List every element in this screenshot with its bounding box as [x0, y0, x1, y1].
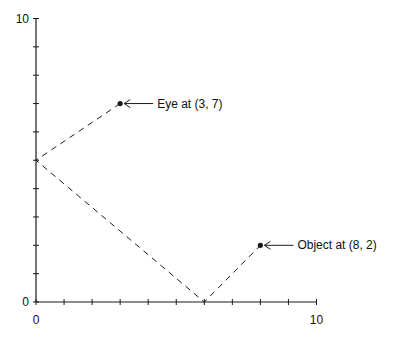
object-point — [258, 243, 263, 248]
object-label: Object at (8, 2) — [297, 238, 376, 252]
y-tick-label: 10 — [16, 12, 30, 26]
light-ray-path — [36, 104, 260, 302]
y-tick-label: 0 — [22, 295, 29, 309]
x-tick-label: 10 — [310, 313, 324, 327]
reflection-diagram: 010010Eye at (3, 7)Object at (8, 2) — [0, 0, 393, 338]
x-tick-label: 0 — [33, 313, 40, 327]
eye-label: Eye at (3, 7) — [157, 97, 222, 111]
diagram-canvas: 010010Eye at (3, 7)Object at (8, 2) — [0, 0, 393, 338]
eye-point — [118, 101, 123, 106]
